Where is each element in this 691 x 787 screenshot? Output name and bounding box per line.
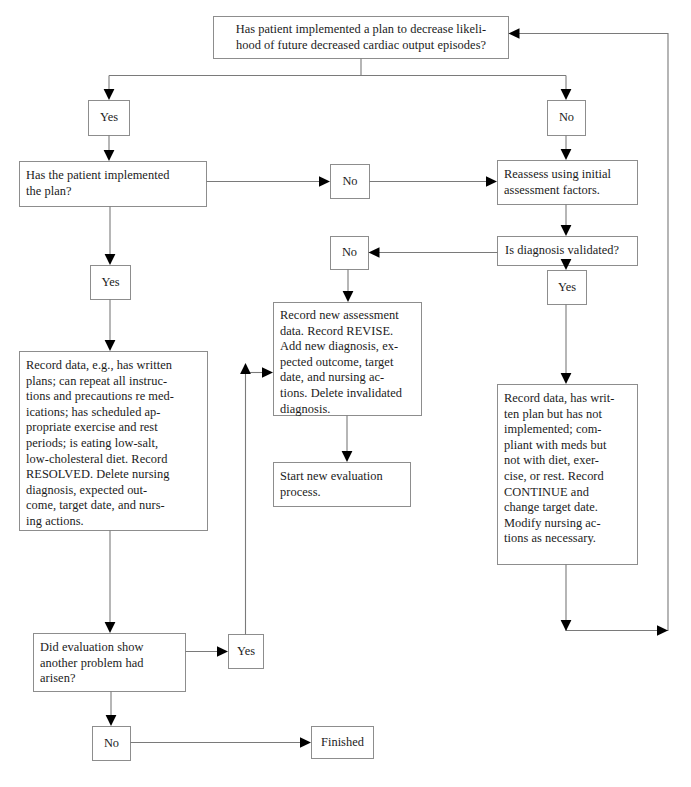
arrow-right-to-reassess — [486, 176, 497, 186]
node-label-no-1: No — [547, 100, 586, 136]
node-label-q-validated: Is diagnosis validated? — [497, 236, 638, 266]
node-label-yes-1: Yes — [88, 100, 130, 136]
node-label-q-top: Has patient implemented a plan to decrea… — [213, 16, 509, 59]
flowchart-canvas: Has patient implemented a plan to decrea… — [0, 0, 691, 787]
node-label-start-new-evaluation: Start new evaluation process. — [273, 464, 411, 509]
node-label-yes-4: Yes — [228, 634, 264, 669]
arrow-down-to-no4 — [106, 715, 117, 726]
node-label-yes-2: Yes — [90, 265, 131, 300]
arrow-left-to-qtop — [509, 28, 520, 38]
arrow-right-to-no2 — [319, 176, 330, 186]
node-label-q-implemented: Has the patient implemented the plan? — [19, 163, 207, 209]
arrow-down-to-no1 — [561, 89, 572, 100]
arrow-right-to-finished — [300, 737, 311, 747]
arrow-down-to-qimpl — [104, 150, 115, 161]
node-label-yes-3: Yes — [547, 270, 587, 305]
node-label-no-2: No — [330, 164, 370, 199]
arrow-right-return-corner — [657, 625, 668, 635]
node-label-reassess: Reassess using initial assessment factor… — [497, 162, 638, 207]
node-label-q-another-problem: Did evaluation show another problem had … — [33, 635, 186, 694]
arrow-down-to-recnew — [343, 291, 354, 302]
arrow-right-to-yes4 — [217, 646, 228, 656]
arrow-right-loop-recnew — [262, 367, 273, 377]
arrow-down-to-yes2 — [105, 254, 116, 265]
arrow-down-to-qval — [561, 225, 572, 236]
arrow-down-to-reassess — [561, 149, 572, 160]
edge-qtop-split — [109, 59, 566, 76]
arrow-up-loop-recnew — [240, 363, 251, 374]
arrow-left-to-no3 — [369, 247, 380, 257]
arrow-down-to-resolved — [105, 340, 116, 351]
node-label-finished: Finished — [311, 726, 374, 759]
node-label-record-resolved: Record data, e.g., has written plans; ca… — [19, 353, 208, 533]
arrow-down-to-start — [342, 451, 353, 462]
arrow-down-to-qanother — [105, 622, 116, 633]
arrow-down-return-corner — [561, 620, 572, 631]
node-label-no-3: No — [330, 236, 369, 270]
arrow-down-to-yes1 — [104, 89, 115, 100]
node-label-no-4: No — [92, 726, 131, 761]
node-label-record-new-assessment: Record new assessment data. Record REVIS… — [273, 303, 422, 417]
node-label-record-continue: Record data, has writ- ten plan but has … — [497, 386, 638, 567]
arrow-down-to-continue — [561, 373, 572, 384]
